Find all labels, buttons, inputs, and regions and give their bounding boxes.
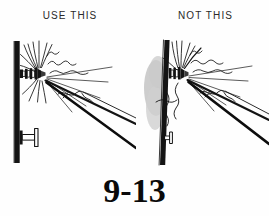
lead-wires-lower (23, 80, 47, 104)
panel-use-this: USE THIS (0, 0, 136, 170)
lead-wires-upper (21, 41, 53, 72)
panel-board (15, 41, 20, 163)
figure-use-this (0, 20, 136, 170)
soldering-iron (46, 81, 137, 149)
panel-not-this: NOT THIS (134, 0, 269, 170)
terminal-lower (163, 132, 173, 144)
illustration-page: USE THIS (0, 0, 269, 216)
soldering-iron (188, 80, 270, 144)
terminal-lower (20, 129, 38, 147)
figure-number: 9-13 (0, 168, 269, 214)
terminal-upper (169, 67, 189, 80)
heat-wave-squiggles (47, 52, 88, 75)
terminal-upper (20, 68, 46, 80)
figure-not-this (134, 20, 269, 170)
